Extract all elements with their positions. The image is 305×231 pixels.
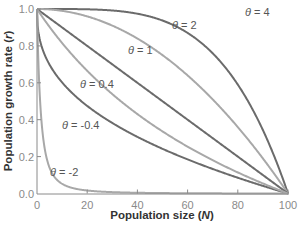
x-tick-label: 100 — [279, 199, 297, 211]
curve-label: θ = 4 — [245, 6, 270, 18]
x-tick-label: 20 — [81, 199, 93, 211]
x-axis-title: Population size (N) — [110, 209, 214, 221]
x-tick-label: 80 — [232, 199, 244, 211]
y-tick-label: 0.8 — [19, 40, 34, 52]
y-axis-title: Population growth rate (r) — [2, 31, 14, 172]
y-tick-label: 1.0 — [19, 3, 34, 15]
theta-logistic-chart: 0204060801000.00.20.40.60.81.0 θ = 4θ = … — [0, 0, 305, 231]
curve-labels: θ = 4θ = 2θ = 1θ = 0.4θ = -0.4θ = -2 — [50, 6, 270, 178]
y-tick-label: 0.4 — [19, 114, 34, 126]
curve-label: θ = -2 — [50, 166, 78, 178]
curve-label: θ = 2 — [172, 19, 197, 31]
curve-label: θ = 0.4 — [80, 78, 114, 90]
curve-label: θ = 1 — [128, 44, 153, 56]
curve-label: θ = -0.4 — [62, 119, 99, 131]
y-tick-label: 0.6 — [19, 77, 34, 89]
y-tick-label: 0.2 — [19, 151, 34, 163]
y-tick-label: 0.0 — [19, 188, 34, 200]
x-tick-label: 0 — [34, 199, 40, 211]
